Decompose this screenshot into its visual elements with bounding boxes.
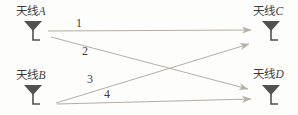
path-4-arrow xyxy=(57,99,251,104)
antenna-c-label: 天线C xyxy=(253,5,283,18)
antenna-a-icon xyxy=(24,21,42,40)
antenna-b-name: 天线 xyxy=(16,69,38,81)
antenna-c-icon xyxy=(262,21,280,40)
antenna-a-label: 天线A xyxy=(16,5,46,18)
path-2-arrow xyxy=(51,37,248,89)
antenna-b-icon xyxy=(24,85,42,104)
path-2-label: 2 xyxy=(82,45,88,58)
antenna-c-name: 天线 xyxy=(253,5,275,17)
antenna-d-letter: D xyxy=(275,68,284,80)
antenna-b-letter: B xyxy=(38,69,45,81)
path-1-label: 1 xyxy=(76,17,82,30)
path-1-arrow xyxy=(48,30,251,31)
antenna-a-letter: A xyxy=(38,5,45,17)
antenna-d-label: 天线D xyxy=(253,68,284,81)
antenna-d-icon xyxy=(262,85,280,104)
antenna-d-name: 天线 xyxy=(253,68,275,80)
path-3-label: 3 xyxy=(87,73,93,86)
antenna-c-letter: C xyxy=(275,5,283,17)
path-4-label: 4 xyxy=(104,88,110,101)
antenna-b-label: 天线B xyxy=(16,69,46,82)
antenna-a-name: 天线 xyxy=(16,5,38,17)
antenna-diagram: 天线A 天线C 天线B 天线D 1 2 3 4 xyxy=(0,0,298,115)
